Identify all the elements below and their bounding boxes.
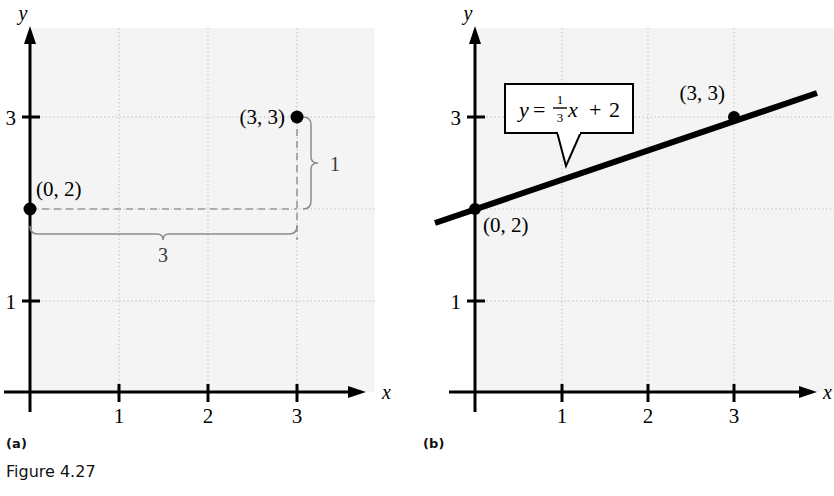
point-label-3-3-b: (3, 3)	[680, 81, 726, 105]
equation-constant-b: 2	[609, 97, 620, 122]
run-value-label-a: 3	[158, 244, 168, 266]
x-tick-label-3-b: 3	[729, 404, 740, 428]
equation-variable-b: x	[567, 97, 578, 122]
point-0-2-b	[469, 203, 481, 215]
figure-caption: Figure 4.27	[6, 462, 96, 481]
equation-equals-b: =	[533, 97, 545, 122]
x-axis-label-b: x	[822, 381, 832, 403]
point-3-3-a	[291, 111, 304, 124]
y-axis-label-b: y	[462, 2, 473, 25]
panel-b-line-graph: y x 3 1 1 2 3 (0, 2) (3, 3)	[417, 0, 834, 440]
rise-value-label-a: 1	[330, 153, 340, 175]
equation-plus-b: +	[589, 97, 601, 122]
point-label-3-3-a: (3, 3)	[240, 105, 286, 129]
equation-numerator-b: 1	[557, 92, 564, 107]
x-tick-label-2-b: 2	[643, 404, 654, 428]
panel-b-caption: (b)	[423, 436, 445, 451]
panel-a-rise-run: y x 3 1 1 2 3 1 3	[0, 0, 417, 440]
point-label-0-2-b: (0, 2)	[483, 213, 529, 237]
plot-background-b	[475, 28, 834, 392]
y-tick-label-3-a: 3	[6, 106, 17, 130]
y-axis-label-a: y	[17, 2, 28, 25]
point-label-0-2-a: (0, 2)	[36, 177, 82, 201]
y-tick-label-3-b: 3	[451, 106, 462, 130]
x-axis-label-a: x	[381, 381, 391, 403]
x-tick-label-3-a: 3	[292, 404, 303, 428]
panel-a-caption: (a)	[6, 436, 27, 451]
x-tick-label-1-b: 1	[557, 404, 568, 428]
equation-lhs-b: y	[517, 97, 529, 122]
plot-background-a	[30, 28, 375, 392]
point-0-2-a	[24, 203, 37, 216]
equation-denominator-b: 3	[557, 110, 564, 125]
point-3-3-b	[728, 111, 740, 123]
y-tick-label-1-a: 1	[6, 290, 17, 314]
x-tick-label-1-a: 1	[114, 404, 125, 428]
figure-4-27: y x 3 1 1 2 3 1 3	[0, 0, 834, 496]
x-tick-label-2-a: 2	[203, 404, 214, 428]
y-tick-label-1-b: 1	[451, 290, 462, 314]
